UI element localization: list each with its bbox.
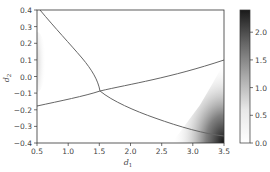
chart: 0.5 1.0 1.5 2.0 2.5 3.0 3.5 d1 0.4 0.3 0… — [0, 0, 270, 172]
y-tick-label: 0.4 — [20, 6, 32, 15]
y-tick-label: 0.0 — [20, 73, 32, 82]
x-tick-label: 2.0 — [125, 147, 137, 156]
x-tick-label: 3.0 — [187, 147, 199, 156]
curve-2 — [37, 60, 224, 106]
y-tick-label: 0.3 — [20, 23, 32, 32]
colorbar-tick-label: 1.0 — [255, 84, 267, 93]
colorbar-tick-label: 1.5 — [255, 56, 267, 65]
colorbar-gradient — [240, 10, 250, 143]
y-tick-label: −0.4 — [14, 139, 32, 148]
density-heatmap — [28, 32, 224, 143]
x-tick-label: 2.5 — [156, 147, 168, 156]
y-tick-label: 0.1 — [20, 56, 32, 65]
y-axis: 0.4 0.3 0.2 0.1 0.0 −0.1 −0.2 −0.3 −0.4 … — [2, 6, 37, 148]
x-tick-label: 1.0 — [62, 147, 74, 156]
x-tick-label: 1.5 — [93, 147, 105, 156]
y-tick-label: −0.3 — [14, 122, 32, 131]
y-tick-label: −0.2 — [14, 106, 32, 115]
x-axis: 0.5 1.0 1.5 2.0 2.5 3.0 3.5 d1 — [31, 143, 230, 168]
colorbar-tick-label: 0.0 — [255, 139, 267, 148]
colorbar-tick-label: 2.0 — [255, 28, 267, 37]
x-tick-label: 0.5 — [31, 147, 43, 156]
colorbar: 0.0 0.5 1.0 1.5 2.0 — [240, 10, 267, 148]
x-axis-label: d1 — [124, 158, 133, 168]
y-tick-label: −0.1 — [14, 89, 32, 98]
x-tick-label: 3.5 — [218, 147, 230, 156]
y-axis-label: d2 — [2, 74, 12, 83]
y-tick-label: 0.2 — [20, 39, 32, 48]
colorbar-tick-label: 0.5 — [255, 111, 267, 120]
